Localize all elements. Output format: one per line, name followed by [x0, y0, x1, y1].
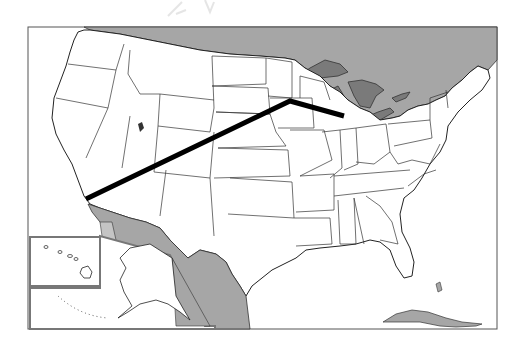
watermark	[168, 0, 214, 16]
hawaii-inset	[30, 237, 100, 286]
us-map: United States map with route line	[0, 0, 521, 349]
